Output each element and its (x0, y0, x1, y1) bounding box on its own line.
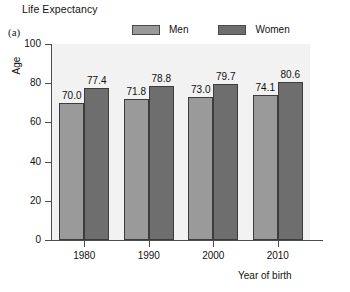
bar-women-2010 (278, 82, 303, 240)
bar-value-women-1980: 77.4 (74, 75, 120, 86)
bar-value-women-2000: 79.7 (203, 71, 249, 82)
bar-men-1980 (59, 103, 84, 240)
y-tick-label-80: 80 (1, 77, 41, 88)
x-tick-label-1990: 1990 (119, 250, 179, 261)
legend-swatch-men (132, 25, 160, 35)
x-axis-title: Year of birth (238, 270, 292, 281)
x-tick-1980 (84, 241, 85, 247)
legend-swatch-women (218, 25, 246, 35)
y-tick-80 (45, 83, 52, 84)
bar-value-women-2010: 80.6 (267, 69, 313, 80)
bar-men-2000 (188, 97, 213, 240)
x-tick-label-2000: 2000 (183, 250, 243, 261)
x-axis-line (51, 240, 323, 241)
x-tick-1990 (149, 241, 150, 247)
panel-label: (a) (8, 26, 20, 38)
bar-value-women-1990: 78.8 (138, 73, 184, 84)
y-tick-0 (45, 240, 52, 241)
y-tick-20 (45, 201, 52, 202)
legend-label-men: Men (169, 24, 188, 35)
chart-title: Life Expectancy (22, 3, 98, 15)
legend-item-women: Women (218, 24, 289, 35)
y-tick-label-20: 20 (1, 195, 41, 206)
bar-men-1990 (124, 99, 149, 240)
bar-men-2010 (253, 95, 278, 240)
x-tick-label-1980: 1980 (54, 250, 114, 261)
chart-legend: Men Women (132, 24, 290, 35)
y-tick-label-40: 40 (1, 156, 41, 167)
y-tick-label-60: 60 (1, 116, 41, 127)
y-tick-label-100: 100 (1, 38, 41, 49)
y-tick-100 (45, 44, 52, 45)
y-axis-line (51, 44, 52, 241)
legend-item-men: Men (132, 24, 188, 35)
bar-women-1980 (84, 88, 109, 240)
y-tick-60 (45, 122, 52, 123)
y-tick-40 (45, 162, 52, 163)
x-tick-2010 (278, 241, 279, 247)
y-tick-label-0: 0 (1, 234, 41, 245)
x-tick-label-2010: 2010 (248, 250, 308, 261)
bar-women-2000 (213, 84, 238, 240)
x-tick-2000 (213, 241, 214, 247)
bar-women-1990 (149, 86, 174, 240)
legend-label-women: Women (255, 24, 289, 35)
